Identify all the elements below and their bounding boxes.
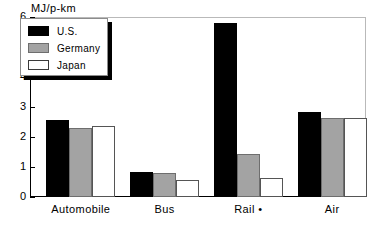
bar [176,180,199,197]
y-axis-tick-label: 2 [20,130,26,142]
bar [237,154,260,197]
bar [92,126,115,197]
x-axis-label: Rail • [234,203,262,215]
y-axis-title: MJ/p-km [31,2,76,14]
y-axis-tick-label: 3 [20,100,26,112]
y-axis-tick: 0 [30,197,35,198]
legend: U.S. Germany Japan [20,18,108,76]
bar [321,118,344,197]
legend-item-germany: Germany [28,42,100,54]
legend-swatch-japan-icon [28,60,49,70]
legend-item-us: U.S. [28,25,78,37]
bar [69,128,92,197]
x-axis-label: Air [325,203,340,215]
bar [214,23,237,197]
legend-swatch-us-icon [28,26,49,36]
bar [46,120,69,197]
x-axis-label: Bus [155,203,175,215]
bar [344,118,367,197]
legend-label-germany: Germany [57,43,100,54]
legend-swatch-germany-icon [28,43,49,53]
bar [153,173,176,197]
legend-label-us: U.S. [57,26,78,37]
bar [130,172,153,197]
x-axis-label: Automobile [51,203,110,215]
y-axis-tick-label: 0 [20,190,26,202]
bar-chart: MJ/p-km 0123456 AutomobileBusRail •Air U… [0,0,373,230]
y-axis-tick-label: 1 [20,160,26,172]
legend-item-japan: Japan [28,59,86,71]
legend-label-japan: Japan [57,60,86,71]
bar [298,112,321,197]
bar [260,178,283,197]
